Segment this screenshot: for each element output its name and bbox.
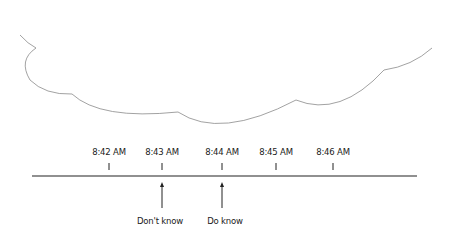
tick-label: 8:45 AM xyxy=(259,147,293,157)
tick-label: 8:46 AM xyxy=(316,147,350,157)
diagram-canvas xyxy=(0,0,452,245)
timeline-ticks xyxy=(109,163,333,170)
tick-label: 8:42 AM xyxy=(92,147,126,157)
event-label-do-know: Do know xyxy=(207,216,243,226)
tick-label: 8:44 AM xyxy=(205,147,239,157)
thought-cloud xyxy=(20,35,432,124)
arrow-up-icon xyxy=(220,182,224,187)
event-arrows xyxy=(160,182,224,208)
arrow-up-icon xyxy=(160,182,164,187)
event-label-dont-know: Don't know xyxy=(137,216,183,226)
tick-label: 8:43 AM xyxy=(145,147,179,157)
